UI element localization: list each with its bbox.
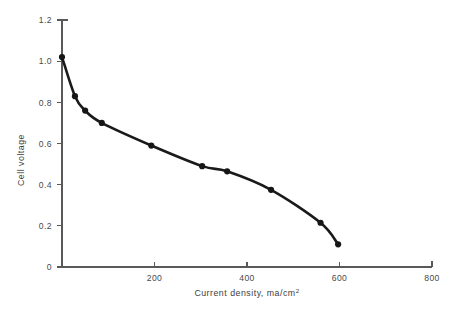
y-tick-label: 0 (47, 262, 52, 272)
y-tick-label: 0.8 (39, 98, 52, 108)
y-axis-title: Cell voltage (16, 134, 26, 186)
data-point (72, 93, 78, 99)
y-tick-label: 0.4 (39, 180, 52, 190)
data-point-markers (59, 54, 341, 248)
data-point (317, 220, 323, 226)
data-point (335, 241, 341, 247)
axes-group (62, 20, 432, 267)
y-axis-ticks: 00.20.40.60.81.01.2 (39, 15, 62, 272)
x-tick-label: 600 (332, 273, 348, 283)
data-point (59, 54, 65, 60)
y-tick-label: 1.0 (39, 56, 52, 66)
polarization-curve-chart: 00.20.40.60.81.01.2 200400600800 Cell vo… (0, 0, 464, 317)
data-point (224, 168, 230, 174)
x-tick-label: 800 (424, 273, 440, 283)
x-axis-title-text: Current density, ma/cm (194, 288, 295, 298)
x-tick-label: 400 (239, 273, 255, 283)
x-axis-ticks: 200400600800 (147, 262, 440, 283)
data-point (99, 120, 105, 126)
data-curve (62, 57, 338, 244)
data-point (148, 142, 154, 148)
y-tick-label: 1.2 (39, 15, 52, 25)
data-point (199, 163, 205, 169)
data-point (268, 187, 274, 193)
data-point (82, 107, 88, 113)
x-tick-label: 200 (147, 273, 163, 283)
chart-container: 00.20.40.60.81.01.2 200400600800 Cell vo… (0, 0, 464, 317)
y-tick-label: 0.2 (39, 221, 52, 231)
x-axis-title-superscript: 2 (296, 287, 300, 294)
x-axis-title: Current density, ma/cm2 (194, 287, 299, 298)
y-tick-label: 0.6 (39, 139, 52, 149)
